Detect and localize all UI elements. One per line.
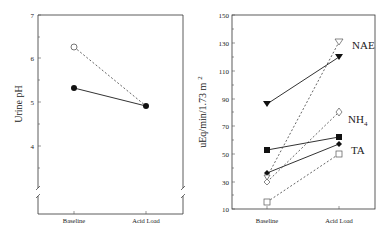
open-square-marker [264, 199, 270, 205]
right-y-axis-title: uEq/min/1.73 m2 [196, 76, 208, 148]
open-diamond-marker [336, 108, 342, 116]
figure: 7 6 5 4 Baseline Acid Load Urine pH [0, 0, 390, 233]
right-ytick-10: 10 [222, 206, 230, 214]
left-ytick-4: 4 [31, 143, 35, 151]
right-ytick-30: 30 [222, 179, 230, 187]
left-xlabel-acid-load: Acid Load [132, 217, 160, 224]
left-plot-frame-bottom [38, 196, 183, 214]
left-axis-break [36, 186, 185, 198]
nae-label: NAE [352, 39, 375, 51]
open-square-marker [336, 151, 342, 157]
left-ytick-5: 5 [31, 99, 35, 107]
nh4-label: NH4 [348, 113, 368, 128]
left-ytick-7: 7 [31, 12, 35, 20]
right-ytick-110: 110 [219, 68, 230, 76]
ta-label: TA [351, 144, 365, 156]
nae-solid-line [267, 57, 339, 104]
nh4-dashed-line [267, 112, 339, 182]
left-ytick-6: 6 [31, 55, 35, 63]
right-chart: 150 130 110 90 70 50 30 10 Baseline Acid… [196, 12, 375, 224]
nae-dashed-line [267, 42, 339, 177]
right-xlabel-acid-load: Acid Load [325, 217, 353, 224]
ta-dashed-line [267, 154, 339, 202]
right-ytick-150: 150 [219, 12, 230, 20]
open-triangle-marker [335, 39, 343, 45]
filled-triangle-marker [263, 101, 271, 107]
open-diamond-marker [264, 179, 270, 185]
filled-square-marker [336, 134, 342, 140]
filled-diamond-marker [336, 141, 342, 147]
left-xlabel-baseline: Baseline [63, 217, 85, 224]
right-y-ticks [232, 15, 235, 209]
right-ytick-130: 130 [219, 40, 230, 48]
right-xlabel-baseline: Baseline [256, 217, 278, 224]
right-ytick-90: 90 [222, 96, 230, 104]
left-y-ticks [38, 15, 41, 168]
right-ytick-70: 70 [222, 123, 230, 131]
filled-circle-marker [143, 103, 149, 109]
filled-square-marker [264, 147, 270, 153]
right-ytick-50: 50 [222, 151, 230, 159]
open-circle-marker [71, 44, 77, 50]
left-y-axis-title: Urine pH [13, 85, 24, 123]
left-plot-frame [38, 15, 183, 188]
filled-circle-marker [71, 85, 77, 91]
left-chart: 7 6 5 4 Baseline Acid Load Urine pH [13, 12, 185, 224]
left-series-solid-line [74, 88, 146, 106]
